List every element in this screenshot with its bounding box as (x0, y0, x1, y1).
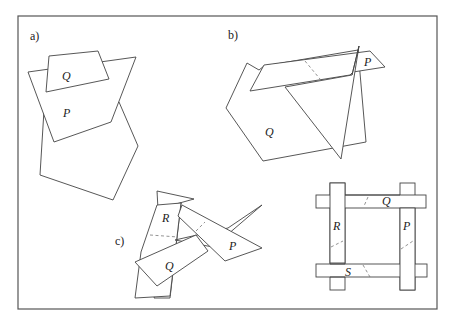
panel-c-label-p: P (228, 239, 237, 253)
panel-d-label-r: R (332, 219, 341, 233)
panel-b-label-p: P (363, 55, 372, 69)
panel-c-label-r: R (161, 211, 170, 225)
panel-a-label-q: Q (62, 69, 71, 83)
panel-d-label-p: P (402, 219, 411, 233)
panel-b: b) P Q (226, 28, 385, 161)
panel-c-label: c) (115, 234, 124, 248)
panel-a: a) Q P (28, 29, 138, 200)
panel-c: c) R P Q (115, 191, 262, 298)
panel-b-label: b) (228, 28, 238, 42)
panel-a-label-p: P (62, 106, 71, 120)
panel-d-label-s: S (345, 265, 351, 279)
panel-a-label: a) (30, 29, 39, 43)
panel-d: Q R P S (316, 183, 427, 290)
panel-d-label-q: Q (382, 194, 391, 208)
panel-b-label-q: Q (265, 125, 274, 139)
overlapping-polygons-figure: a) Q P b) P Q c) R P Q (0, 0, 455, 321)
panel-c-label-q: Q (165, 259, 174, 273)
